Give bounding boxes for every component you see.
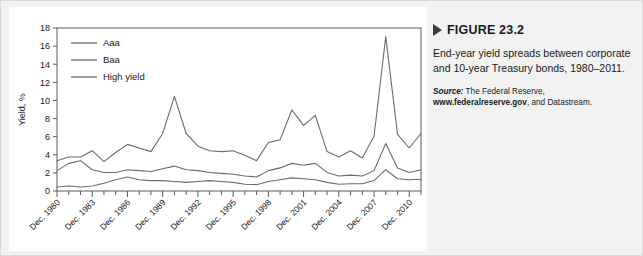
yield-spread-line-chart: 024681012141618Yield, %Dec. 1980Dec. 198… — [9, 7, 427, 251]
x-tick-label: Dec. 1995 — [204, 197, 239, 232]
plot-frame — [57, 28, 421, 191]
x-tick-label: Dec. 1986 — [98, 197, 133, 232]
source-label: Source: — [433, 87, 463, 96]
right-triangle-icon — [433, 24, 442, 36]
figure-source: Source: The Federal Reserve, www.federal… — [433, 86, 633, 108]
y-tick-label: 14 — [40, 60, 50, 70]
legend-label-aaa: Aaa — [103, 37, 121, 48]
y-tick-label: 2 — [45, 168, 50, 178]
y-tick-label: 8 — [45, 114, 50, 124]
x-tick-label: Dec. 2001 — [274, 197, 309, 232]
x-tick-label: Dec. 1980 — [27, 197, 62, 232]
y-tick-label: 10 — [40, 96, 50, 106]
x-tick-label: Dec. 2010 — [380, 197, 415, 232]
plot-area: 024681012141618Yield, %Dec. 1980Dec. 198… — [9, 7, 427, 251]
x-tick-label: Dec. 1983 — [63, 197, 98, 232]
y-tick-label: 16 — [40, 41, 50, 51]
chart-panel: 024681012141618Yield, %Dec. 1980Dec. 198… — [9, 7, 427, 251]
legend-label-high-yield: High yield — [103, 71, 145, 82]
figure-caption: End-year yield spreads between corporate… — [433, 46, 633, 76]
y-tick-label: 18 — [40, 23, 50, 33]
y-tick-label: 0 — [45, 186, 50, 196]
caption-panel: FIGURE 23.2 End-year yield spreads betwe… — [433, 23, 633, 108]
x-tick-label: Dec. 1992 — [168, 197, 203, 232]
figure-title: FIGURE 23.2 — [447, 23, 524, 37]
y-tick-label: 12 — [40, 78, 50, 88]
legend-label-baa: Baa — [103, 54, 121, 65]
x-tick-label: Dec. 2007 — [344, 197, 379, 232]
x-tick-label: Dec. 1998 — [239, 197, 274, 232]
figure-header: FIGURE 23.2 — [433, 23, 633, 37]
x-tick-label: Dec. 2004 — [309, 197, 344, 232]
x-tick-label: Dec. 1989 — [133, 197, 168, 232]
source-url[interactable]: www.federalreserve.gov — [433, 98, 527, 107]
source-text-part1: The Federal Reserve, — [463, 87, 544, 96]
y-tick-label: 6 — [45, 132, 50, 142]
source-text-part2: , and Datastream. — [527, 98, 592, 107]
figure-container: 024681012141618Yield, %Dec. 1980Dec. 198… — [0, 0, 643, 256]
y-axis-title: Yield, % — [17, 93, 27, 126]
y-tick-label: 4 — [45, 150, 50, 160]
